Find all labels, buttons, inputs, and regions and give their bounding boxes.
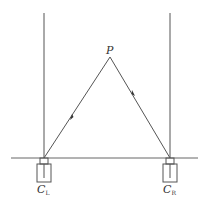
stereo-diagram	[0, 0, 205, 206]
right-camera-subscript: R	[171, 189, 176, 196]
right-ray-arrow-icon	[132, 90, 136, 96]
right-camera-icon	[163, 158, 177, 182]
point-label-text: P	[106, 44, 113, 57]
point-p-label: P	[106, 45, 113, 56]
left-camera-icon	[37, 158, 51, 182]
left-camera-label: CL	[37, 184, 49, 195]
right-camera-label: CR	[163, 184, 176, 195]
right-ray	[110, 57, 170, 158]
left-ray	[44, 57, 110, 158]
left-camera-subscript: L	[45, 189, 49, 196]
